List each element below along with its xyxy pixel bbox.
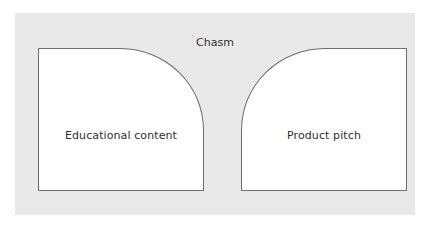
educational-content-block: Educational content	[38, 48, 204, 191]
educational-content-label: Educational content	[39, 129, 203, 142]
diagram-canvas: Chasm Educational content Product pitch	[15, 13, 415, 215]
product-pitch-block: Product pitch	[241, 48, 407, 191]
product-pitch-label: Product pitch	[242, 129, 406, 142]
